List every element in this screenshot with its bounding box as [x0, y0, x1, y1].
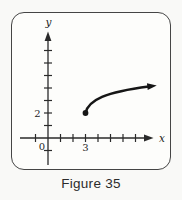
curve-start-point-dot: [83, 110, 89, 116]
x-axis-label: x: [159, 132, 165, 144]
y-axis-arrow-icon: [45, 32, 52, 42]
y-tick-label-2: 2: [34, 108, 40, 119]
function-curve: [86, 86, 149, 113]
origin-label: 0: [39, 141, 45, 152]
y-axis-label: y: [45, 16, 53, 28]
x-tick-label-3: 3: [82, 142, 88, 153]
coordinate-plane-graph: y x 0 2 3: [12, 13, 169, 168]
figure-caption: Figure 35: [11, 176, 171, 191]
x-axis-arrow-icon: [144, 135, 154, 142]
figure-35-image: y x 0 2 3 Figure 35: [0, 0, 182, 200]
figure-frame: y x 0 2 3: [11, 12, 171, 170]
curve-arrow-icon: [147, 83, 157, 90]
